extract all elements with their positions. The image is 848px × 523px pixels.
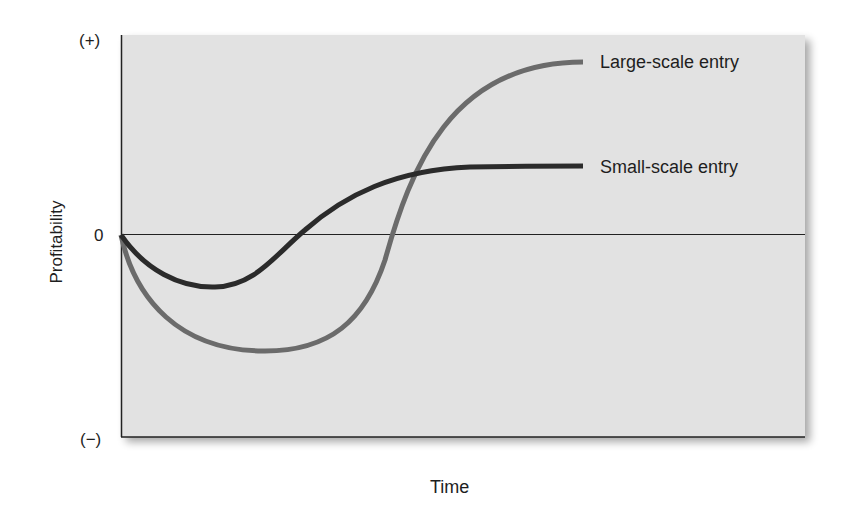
y-axis-label: Profitability: [47, 197, 67, 287]
legend-small-scale-entry: Small-scale entry: [600, 157, 738, 178]
y-tick-minus: (−): [80, 430, 101, 450]
x-axis-label: Time: [430, 477, 469, 498]
plot-area: [121, 35, 805, 437]
y-tick-plus: (+): [79, 31, 100, 51]
legend-large-scale-entry: Large-scale entry: [600, 52, 739, 73]
chart-canvas: [0, 0, 848, 523]
y-tick-zero: 0: [94, 226, 103, 246]
